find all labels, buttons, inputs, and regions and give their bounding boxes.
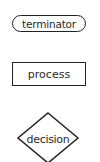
process-shape: process: [12, 62, 86, 86]
diagram-canvas: terminator process decision: [0, 0, 100, 162]
decision-label: decision: [27, 133, 70, 146]
decision-shape: decision: [17, 113, 79, 162]
process-label: process: [28, 68, 70, 81]
terminator-label: terminator: [22, 18, 76, 30]
terminator-shape: terminator: [12, 15, 86, 32]
